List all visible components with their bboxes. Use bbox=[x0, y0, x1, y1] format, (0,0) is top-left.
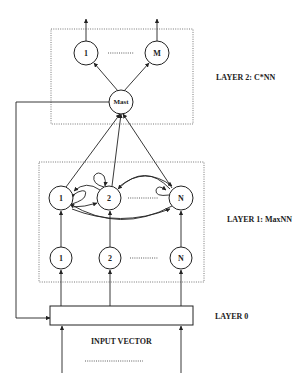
arc-1-to-2 bbox=[72, 203, 97, 207]
mast-to-out1-edge bbox=[94, 63, 118, 91]
layer0-box bbox=[50, 306, 193, 325]
node-label: Mast bbox=[113, 98, 129, 106]
master-node: Mast bbox=[109, 90, 133, 114]
layer1-upper-node-1: 1 bbox=[49, 186, 73, 210]
layer2-output-node-1: 1 bbox=[74, 41, 98, 65]
input-vector-label: INPUT VECTOR bbox=[91, 337, 152, 346]
node-label: 1 bbox=[59, 194, 63, 203]
node-label: 2 bbox=[108, 254, 112, 263]
n2-to-mast-edge bbox=[112, 114, 121, 186]
arc-2-to-1 bbox=[74, 185, 100, 191]
layer1-upper-node-2: 2 bbox=[97, 186, 121, 210]
node-label: N bbox=[178, 194, 184, 203]
nN-to-mast-edge bbox=[123, 114, 172, 188]
n1-to-mast-edge bbox=[66, 114, 120, 187]
node-label: 1 bbox=[84, 49, 88, 58]
arc-2-to-N bbox=[120, 176, 172, 186]
self-loop-1 bbox=[72, 191, 86, 204]
self-loop-2 bbox=[94, 173, 106, 187]
layer2-output-node-m: M bbox=[145, 41, 169, 65]
layer1-label: LAYER 1: MaxNN bbox=[227, 215, 292, 224]
arc-1-to-N bbox=[72, 209, 170, 219]
layer1-lower-node-2: 2 bbox=[99, 247, 121, 269]
node-label: N bbox=[178, 254, 184, 263]
layer1-lower-node-n: N bbox=[170, 247, 192, 269]
self-loop-N bbox=[156, 187, 169, 195]
node-label: 1 bbox=[59, 254, 63, 263]
node-label: 2 bbox=[107, 194, 111, 203]
network-diagram: 1 M Mast 1 2 N 1 2 N LAYER 2: C*NN LAYER… bbox=[0, 0, 304, 373]
layer1-lower-node-1: 1 bbox=[50, 247, 72, 269]
mast-to-outm-edge bbox=[124, 63, 149, 91]
node-label: M bbox=[153, 49, 161, 58]
layer2-label: LAYER 2: C*NN bbox=[216, 73, 275, 82]
layer0-label: LAYER 0 bbox=[215, 312, 248, 321]
layer1-upper-node-n: N bbox=[169, 186, 193, 210]
